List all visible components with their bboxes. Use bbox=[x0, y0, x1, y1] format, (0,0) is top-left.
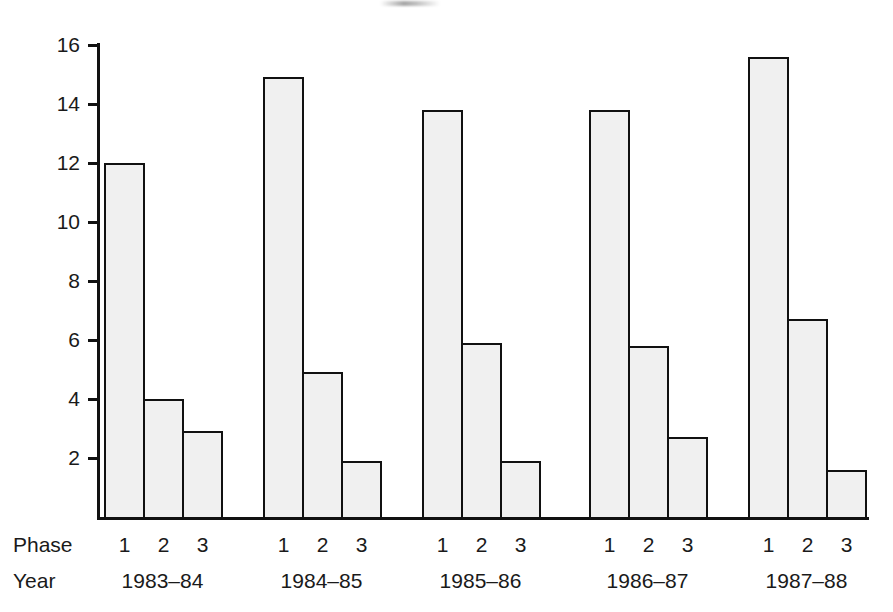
bar bbox=[500, 461, 541, 519]
bar bbox=[667, 437, 708, 519]
y-axis-tick bbox=[88, 280, 99, 283]
bar bbox=[143, 399, 184, 519]
y-axis-tick bbox=[88, 457, 99, 460]
scan-artifact bbox=[380, 1, 440, 6]
phase-label: 3 bbox=[490, 534, 551, 555]
bar bbox=[628, 346, 669, 519]
phase-row-label: Phase bbox=[13, 534, 73, 555]
y-axis-tick bbox=[88, 398, 99, 401]
y-axis-tick-label: 2 bbox=[20, 447, 80, 468]
bar bbox=[104, 163, 145, 519]
y-axis-tick-label: 14 bbox=[20, 93, 80, 114]
year-label: 1984–85 bbox=[243, 570, 400, 591]
y-axis-tick-label: 10 bbox=[20, 211, 80, 232]
year-label: 1983–84 bbox=[84, 570, 241, 591]
y-axis-tick-label: 12 bbox=[20, 152, 80, 173]
bar bbox=[263, 77, 304, 519]
phase-label: 3 bbox=[657, 534, 718, 555]
bar bbox=[826, 470, 867, 519]
phase-label: 3 bbox=[331, 534, 392, 555]
y-axis-tick-label: 6 bbox=[20, 329, 80, 350]
y-axis-tick-label: 8 bbox=[20, 270, 80, 291]
bar bbox=[302, 372, 343, 519]
y-axis-tick-label: 16 bbox=[20, 34, 80, 55]
bar bbox=[748, 57, 789, 519]
bar bbox=[787, 319, 828, 519]
bar bbox=[461, 343, 502, 519]
y-axis-tick bbox=[88, 103, 99, 106]
y-axis-tick bbox=[88, 44, 100, 47]
bar bbox=[341, 461, 382, 519]
year-label: 1986–87 bbox=[569, 570, 726, 591]
y-axis-tick bbox=[88, 339, 99, 342]
bar bbox=[589, 110, 630, 519]
year-row-label: Year bbox=[13, 570, 55, 591]
bar bbox=[422, 110, 463, 519]
y-axis-tick-label: 4 bbox=[20, 388, 80, 409]
year-label: 1987–88 bbox=[728, 570, 885, 591]
y-axis-tick bbox=[88, 162, 99, 165]
year-label: 1985–86 bbox=[402, 570, 559, 591]
phase-label: 3 bbox=[816, 534, 877, 555]
y-axis-tick bbox=[88, 221, 99, 224]
bar-chart: 246810121416 Phase Year 123123123123123 … bbox=[0, 0, 893, 612]
phase-label: 3 bbox=[172, 534, 233, 555]
bar bbox=[182, 431, 223, 519]
